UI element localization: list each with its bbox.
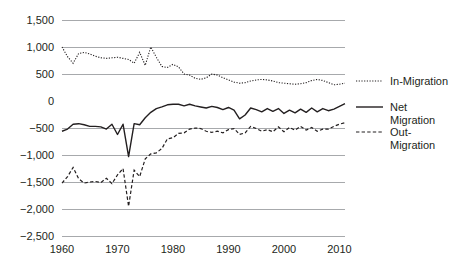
y-axis-tick-label: −1,500: [20, 176, 54, 188]
legend-label-in-migration: In-Migration: [390, 75, 448, 87]
chart-svg: 1,5001,0005000−500−1,000−1,500−2,000−2,5…: [0, 0, 467, 266]
x-axis-tick-label: 1970: [105, 243, 129, 255]
x-axis-tick-label: 1960: [50, 243, 74, 255]
y-axis-tick-label: 500: [36, 68, 54, 80]
y-axis-tick-label: −500: [29, 122, 54, 134]
legend-label-net-migration-line2: Migration: [390, 114, 435, 126]
x-axis-tick-label: 2010: [327, 243, 351, 255]
y-axis-tick-label: 1,500: [26, 14, 54, 26]
y-axis-tick-label: 0: [48, 95, 54, 107]
y-axis-tick-label: −1,000: [20, 149, 54, 161]
x-axis-tick-label: 2000: [272, 243, 296, 255]
y-axis-tick-label: 1,000: [26, 41, 54, 53]
legend-label-out-migration-line1: Out-: [390, 126, 412, 138]
migration-line-chart: 1,5001,0005000−500−1,000−1,500−2,000−2,5…: [0, 0, 467, 266]
legend-label-net-migration-line1: Net: [390, 101, 407, 113]
y-axis-tick-label: −2,500: [20, 230, 54, 242]
y-axis-tick-label: −2,000: [20, 203, 54, 215]
x-axis-tick-label: 1990: [216, 243, 240, 255]
legend-label-out-migration-line2: Migration: [390, 139, 435, 151]
x-axis-tick-label: 1980: [161, 243, 185, 255]
